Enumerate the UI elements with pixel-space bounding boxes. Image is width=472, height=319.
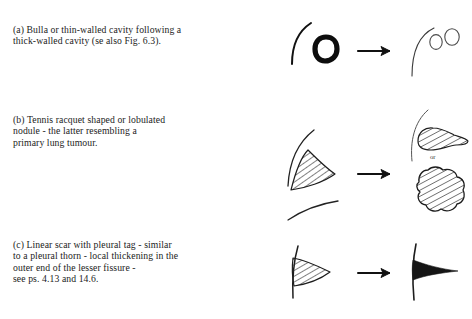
figure-page: (a) Bulla or thin-walled cavity followin… <box>0 0 472 319</box>
figure-b <box>286 108 472 226</box>
lobulated-nodule-icon <box>417 167 464 211</box>
fissure-line-left <box>288 201 338 220</box>
caption-c: (c) Linear scar with pleural tag - simil… <box>13 239 228 285</box>
tennis-racquet-nodule-icon <box>418 128 468 150</box>
scan-artifact <box>80 0 210 3</box>
caption-b: (b) Tennis racquet shaped or lobulated n… <box>13 114 228 148</box>
or-connector-label: or <box>430 153 436 160</box>
figure-c <box>286 240 472 310</box>
arrow-right-icon <box>358 170 390 179</box>
pleural-curve-left <box>292 23 311 64</box>
figure-a <box>286 8 472 88</box>
thick-walled-cavity-icon <box>315 37 337 61</box>
thin-walled-bulla-icon-2 <box>445 29 459 45</box>
pleural-thorn-icon <box>412 260 458 280</box>
pleural-curve-right <box>412 28 434 76</box>
thin-walled-bulla-icon-1 <box>430 35 442 50</box>
hatched-wedge-linear-scar <box>292 258 330 286</box>
arrow-right-icon <box>358 47 390 56</box>
hatched-wedge-before <box>291 150 335 190</box>
caption-a: (a) Bulla or thin-walled cavity followin… <box>13 24 228 47</box>
arrow-right-icon <box>358 269 390 278</box>
